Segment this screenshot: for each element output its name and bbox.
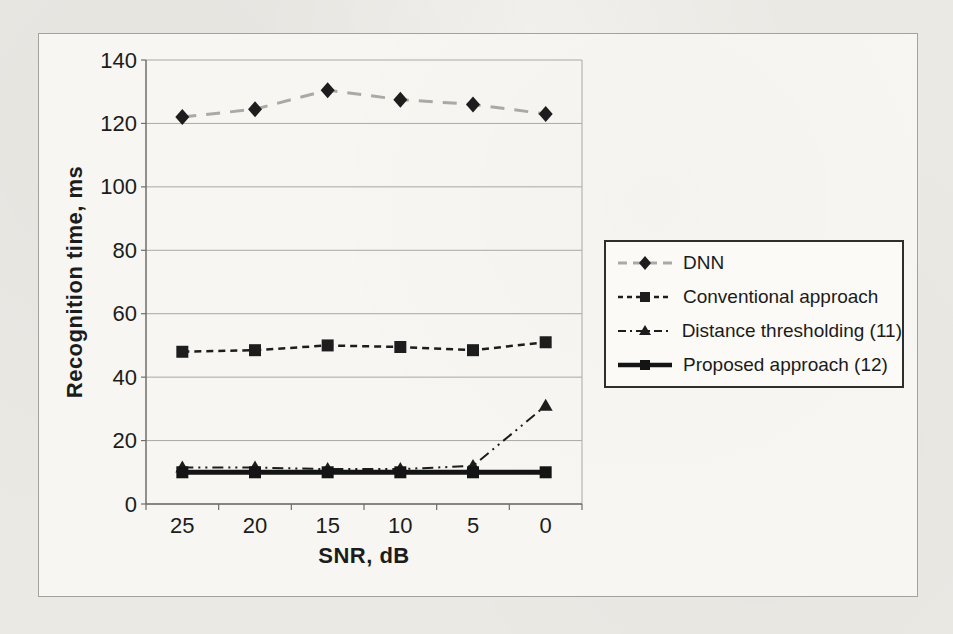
data-point-marker-diamond-icon [393, 92, 407, 108]
y-axis-title-text: Recognition time, ms [62, 166, 88, 398]
legend-sample-line [616, 320, 673, 342]
legend-marker-square-icon [640, 360, 650, 370]
data-point-marker-square-icon [540, 466, 552, 478]
y-tick-label: 0 [125, 492, 137, 517]
x-tick-label: 20 [243, 513, 267, 538]
series-2 [176, 336, 551, 358]
figure-panel: 0204060801001201402520151050 Recognition… [38, 33, 918, 597]
x-tick-label: 10 [388, 513, 412, 538]
data-point-marker-square-icon [540, 336, 552, 348]
data-point-marker-square-icon [176, 346, 188, 358]
series-3 [175, 399, 552, 474]
data-point-marker-square-icon [249, 466, 261, 478]
x-tick-label: 0 [540, 513, 552, 538]
page: { "figure": { "page_background": "#eae9e… [0, 0, 953, 634]
data-point-marker-diamond-icon [539, 106, 553, 122]
y-tick-label: 20 [113, 428, 137, 453]
data-point-marker-diamond-icon [321, 82, 335, 98]
legend-sample-line [616, 286, 674, 308]
legend-label: Conventional approach [683, 286, 878, 308]
y-axis-title: Recognition time, ms [53, 60, 97, 504]
data-point-marker-square-icon [394, 466, 406, 478]
y-tick-label: 120 [100, 111, 137, 136]
data-point-marker-square-icon [394, 341, 406, 353]
y-tick-label: 140 [100, 48, 137, 73]
data-point-marker-triangle-icon [539, 399, 553, 411]
y-tick-label: 60 [113, 301, 137, 326]
legend-item: Conventional approach [616, 286, 902, 308]
x-tick-label: 15 [315, 513, 339, 538]
y-tick-label: 40 [113, 365, 137, 390]
series-line [182, 90, 545, 117]
legend-box: DNNConventional approachDistance thresho… [604, 240, 904, 388]
y-tick-label: 80 [113, 238, 137, 263]
data-point-marker-diamond-icon [466, 96, 480, 112]
x-axis-title: SNR, dB [146, 543, 582, 569]
x-tick-label: 25 [170, 513, 194, 538]
series-4 [176, 466, 551, 478]
legend-label: Proposed approach (12) [683, 354, 888, 376]
y-tick-label: 100 [100, 174, 137, 199]
legend-marker-diamond-icon [639, 256, 651, 270]
data-point-marker-square-icon [467, 344, 479, 356]
legend-marker-square-icon [640, 292, 650, 302]
legend-item: Distance thresholding (11) [616, 320, 902, 342]
series-line [182, 342, 545, 352]
data-point-marker-square-icon [322, 339, 334, 351]
data-point-marker-square-icon [249, 344, 261, 356]
legend-sample-line [616, 252, 674, 274]
data-point-marker-square-icon [467, 466, 479, 478]
legend-item: Proposed approach (12) [616, 354, 902, 376]
series-line [182, 406, 545, 469]
data-point-marker-square-icon [176, 466, 188, 478]
legend-label: Distance thresholding (11) [682, 320, 902, 342]
legend-sample-line [616, 354, 674, 376]
legend-label: DNN [683, 252, 724, 274]
data-point-marker-diamond-icon [248, 101, 262, 117]
data-point-marker-square-icon [322, 466, 334, 478]
data-point-marker-diamond-icon [175, 109, 189, 125]
legend-item: DNN [616, 252, 902, 274]
series-1 [175, 82, 552, 125]
x-tick-label: 5 [467, 513, 479, 538]
